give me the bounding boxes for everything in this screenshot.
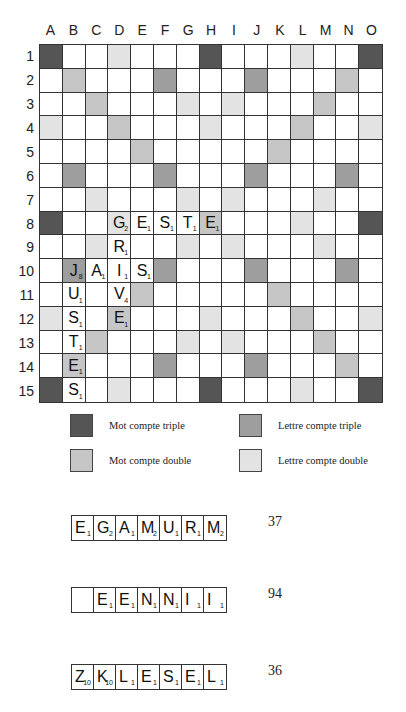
board-square[interactable] xyxy=(154,307,177,331)
board-square[interactable] xyxy=(359,188,382,212)
board-square[interactable] xyxy=(108,140,131,164)
board-square[interactable] xyxy=(154,331,177,355)
board-square[interactable] xyxy=(86,331,109,355)
board-square[interactable] xyxy=(222,307,245,331)
board-square[interactable] xyxy=(177,354,200,378)
board-square[interactable] xyxy=(131,331,154,355)
board-square[interactable] xyxy=(86,378,109,402)
board-square[interactable] xyxy=(200,93,223,117)
board-square[interactable] xyxy=(86,45,109,69)
board-square[interactable] xyxy=(314,188,337,212)
board-square[interactable] xyxy=(63,140,86,164)
board-square[interactable] xyxy=(63,69,86,93)
board-square[interactable] xyxy=(63,116,86,140)
board-square[interactable]: T1 xyxy=(63,331,86,355)
rack-tile[interactable]: S1 xyxy=(160,665,182,689)
board-square[interactable]: R1 xyxy=(108,235,131,259)
board-square[interactable] xyxy=(314,259,337,283)
board-square[interactable] xyxy=(86,235,109,259)
board-square[interactable] xyxy=(268,45,291,69)
board-square[interactable] xyxy=(245,212,268,236)
board-square[interactable] xyxy=(268,69,291,93)
board-square[interactable] xyxy=(336,140,359,164)
board-square[interactable] xyxy=(268,188,291,212)
board-square[interactable] xyxy=(154,93,177,117)
board-square[interactable] xyxy=(86,93,109,117)
board-square[interactable] xyxy=(268,378,291,402)
board-square[interactable] xyxy=(200,235,223,259)
board-square[interactable] xyxy=(222,354,245,378)
board-square[interactable] xyxy=(131,378,154,402)
board-square[interactable] xyxy=(63,45,86,69)
board-square[interactable] xyxy=(108,69,131,93)
board-square[interactable] xyxy=(222,259,245,283)
board-square[interactable] xyxy=(200,259,223,283)
board-square[interactable] xyxy=(40,378,63,402)
board-square[interactable] xyxy=(245,140,268,164)
board-square[interactable] xyxy=(40,307,63,331)
board-square[interactable] xyxy=(108,164,131,188)
board-square[interactable] xyxy=(245,45,268,69)
board-square[interactable] xyxy=(268,93,291,117)
board-square[interactable] xyxy=(108,188,131,212)
board-square[interactable] xyxy=(336,307,359,331)
board-square[interactable] xyxy=(359,283,382,307)
board-square[interactable] xyxy=(154,45,177,69)
board-square[interactable] xyxy=(154,116,177,140)
board-square[interactable] xyxy=(291,307,314,331)
board-square[interactable] xyxy=(268,164,291,188)
board-square[interactable] xyxy=(359,354,382,378)
board-square[interactable] xyxy=(222,188,245,212)
board-square[interactable] xyxy=(245,164,268,188)
board-square[interactable] xyxy=(131,283,154,307)
board-square[interactable] xyxy=(359,331,382,355)
board-square[interactable] xyxy=(154,69,177,93)
board-square[interactable] xyxy=(222,283,245,307)
board-square[interactable] xyxy=(314,93,337,117)
board-square[interactable] xyxy=(40,259,63,283)
board-square[interactable] xyxy=(86,283,109,307)
board-square[interactable] xyxy=(154,188,177,212)
board-square[interactable] xyxy=(291,164,314,188)
board-square[interactable] xyxy=(336,378,359,402)
board-square[interactable] xyxy=(63,212,86,236)
board-square[interactable] xyxy=(131,307,154,331)
rack-tile[interactable]: E1 xyxy=(182,665,204,689)
board-square[interactable] xyxy=(177,164,200,188)
board-square[interactable] xyxy=(86,116,109,140)
board-square[interactable] xyxy=(359,378,382,402)
board-square[interactable] xyxy=(314,69,337,93)
board-square[interactable] xyxy=(336,116,359,140)
board-square[interactable] xyxy=(314,45,337,69)
board-square[interactable] xyxy=(154,140,177,164)
board-square[interactable] xyxy=(200,116,223,140)
blank-tile[interactable] xyxy=(72,588,94,612)
board-square[interactable] xyxy=(177,93,200,117)
board-square[interactable] xyxy=(177,188,200,212)
board-square[interactable] xyxy=(40,331,63,355)
board-square[interactable] xyxy=(245,93,268,117)
rack-tile[interactable]: E1 xyxy=(116,588,138,612)
rack-tile[interactable]: L1 xyxy=(116,665,138,689)
board-square[interactable] xyxy=(291,140,314,164)
board-square[interactable] xyxy=(268,212,291,236)
board-square[interactable]: G2 xyxy=(108,212,131,236)
board-square[interactable] xyxy=(314,116,337,140)
board-square[interactable] xyxy=(359,164,382,188)
board-square[interactable] xyxy=(222,164,245,188)
board-square[interactable] xyxy=(291,45,314,69)
board-square[interactable] xyxy=(108,93,131,117)
board-square[interactable] xyxy=(40,283,63,307)
board-square[interactable] xyxy=(86,212,109,236)
board-square[interactable] xyxy=(245,116,268,140)
board-square[interactable] xyxy=(86,188,109,212)
board-square[interactable] xyxy=(268,235,291,259)
board-square[interactable] xyxy=(336,235,359,259)
board-square[interactable] xyxy=(154,354,177,378)
board-square[interactable] xyxy=(268,354,291,378)
board-square[interactable] xyxy=(200,164,223,188)
board-square[interactable] xyxy=(336,69,359,93)
board-square[interactable] xyxy=(314,140,337,164)
board-square[interactable] xyxy=(314,235,337,259)
board-square[interactable] xyxy=(40,212,63,236)
